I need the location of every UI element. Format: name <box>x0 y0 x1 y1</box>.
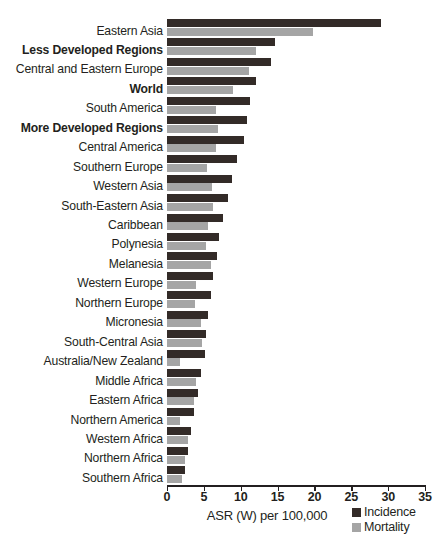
bar-mortality <box>167 47 256 55</box>
bar-incidence <box>167 369 201 377</box>
chart-legend: Incidence Mortality <box>352 505 416 535</box>
incidence-swatch-icon <box>352 508 361 517</box>
bar-mortality <box>167 125 218 133</box>
category-label: Central America <box>0 141 163 153</box>
category-label: Less Developed Regions <box>0 44 163 56</box>
category-label: Melanesia <box>0 258 163 270</box>
bar-mortality <box>167 339 202 347</box>
legend-label-incidence: Incidence <box>364 505 416 520</box>
bar-mortality <box>167 319 201 327</box>
bar-incidence <box>167 97 250 105</box>
bar-mortality <box>167 203 213 211</box>
category-label: Micronesia <box>0 316 163 328</box>
bar-incidence <box>167 233 219 241</box>
category-label: Northern Africa <box>0 452 163 464</box>
bar-incidence <box>167 330 206 338</box>
bar-incidence <box>167 58 271 66</box>
bar-mortality <box>167 261 211 269</box>
cropped-title-remnant <box>150 0 440 10</box>
bar-incidence <box>167 19 381 27</box>
category-label: Eastern Africa <box>0 394 163 406</box>
bar-mortality <box>167 417 180 425</box>
category-label: Northern Europe <box>0 297 163 309</box>
category-label: World <box>0 83 163 95</box>
x-tick-label: 0 <box>164 490 171 504</box>
legend-label-mortality: Mortality <box>364 520 409 535</box>
bar-incidence <box>167 272 213 280</box>
category-label: Central and Eastern Europe <box>0 63 163 75</box>
legend-item-mortality: Mortality <box>352 520 416 535</box>
legend-item-incidence: Incidence <box>352 505 416 520</box>
bar-incidence <box>167 311 208 319</box>
category-label: Western Asia <box>0 180 163 192</box>
category-label: Eastern Asia <box>0 25 163 37</box>
x-tick-label: 35 <box>418 490 432 504</box>
x-tick-label: 30 <box>381 490 395 504</box>
bar-incidence <box>167 291 211 299</box>
bar-incidence <box>167 252 217 260</box>
bar-incidence <box>167 214 223 222</box>
bar-incidence <box>167 466 185 474</box>
x-tick-label: 10 <box>234 490 248 504</box>
bar-incidence <box>167 38 275 46</box>
mortality-swatch-icon <box>352 523 361 532</box>
bar-incidence <box>167 116 247 124</box>
bar-mortality <box>167 67 249 75</box>
x-tick-label: 25 <box>345 490 359 504</box>
category-label: Southern Europe <box>0 161 163 173</box>
x-axis-line <box>167 485 426 487</box>
bar-mortality <box>167 378 196 386</box>
bar-mortality <box>167 86 233 94</box>
bar-incidence <box>167 350 205 358</box>
bar-mortality <box>167 164 207 172</box>
bar-incidence <box>167 155 237 163</box>
bar-mortality <box>167 300 195 308</box>
x-tick-label: 15 <box>271 490 285 504</box>
category-label: South America <box>0 102 163 114</box>
stomach-cancer-asr-bar-chart: Eastern AsiaLess Developed RegionsCentra… <box>0 0 444 550</box>
bar-mortality <box>167 475 182 483</box>
bar-incidence <box>167 408 194 416</box>
bar-mortality <box>167 144 216 152</box>
bar-mortality <box>167 106 216 114</box>
bar-mortality <box>167 242 206 250</box>
bar-incidence <box>167 447 188 455</box>
category-label: South-Central Asia <box>0 336 163 348</box>
category-label: Caribbean <box>0 219 163 231</box>
bar-incidence <box>167 77 256 85</box>
bar-mortality <box>167 456 185 464</box>
bar-mortality <box>167 436 188 444</box>
category-label: More Developed Regions <box>0 122 163 134</box>
category-label: Southern Africa <box>0 472 163 484</box>
category-label: South-Eastern Asia <box>0 200 163 212</box>
bar-mortality <box>167 222 208 230</box>
x-tick-label: 5 <box>200 490 207 504</box>
bar-incidence <box>167 194 228 202</box>
bar-incidence <box>167 136 244 144</box>
category-label: Western Africa <box>0 433 163 445</box>
category-label: Western Europe <box>0 277 163 289</box>
bar-mortality <box>167 397 194 405</box>
bar-mortality <box>167 183 212 191</box>
category-label: Polynesia <box>0 238 163 250</box>
bar-mortality <box>167 28 313 36</box>
category-label: Middle Africa <box>0 375 163 387</box>
bar-incidence <box>167 175 232 183</box>
x-axis-title: ASR (W) per 100,000 <box>167 508 367 523</box>
category-label: Northern America <box>0 414 163 426</box>
x-tick-label: 20 <box>308 490 322 504</box>
bar-incidence <box>167 389 198 397</box>
category-label: Australia/New Zealand <box>0 355 163 367</box>
bar-mortality <box>167 281 196 289</box>
bar-mortality <box>167 358 180 366</box>
bar-incidence <box>167 427 191 435</box>
